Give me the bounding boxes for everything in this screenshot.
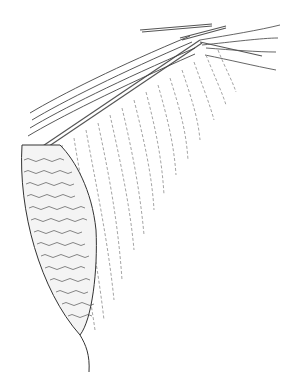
knitting-drawing: [0, 0, 294, 383]
knitted-panel: [22, 145, 97, 335]
illustration-canvas: [0, 0, 294, 383]
knitting-needles: [22, 24, 262, 163]
yarn-tail: [80, 335, 89, 372]
